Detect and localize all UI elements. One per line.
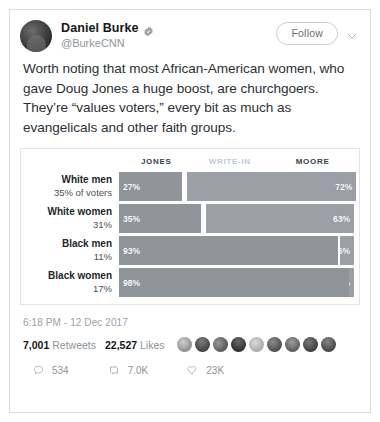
reply-count: 534 bbox=[52, 365, 69, 376]
chart-row: White men 35% of voters 27% 2% 72% bbox=[26, 172, 354, 201]
chart-row: Black women 17% 98% 2% bbox=[26, 268, 354, 297]
like-icon bbox=[186, 364, 199, 377]
chart-row-label: White men 35% of voters bbox=[26, 172, 119, 201]
bar-segment-jones-label: 93% bbox=[119, 246, 144, 256]
likes-count: 22,527 bbox=[105, 339, 137, 351]
retweet-count: 7.0K bbox=[128, 365, 149, 376]
liker-avatar[interactable] bbox=[303, 337, 318, 352]
bar-segment-jones-label: 98% bbox=[119, 278, 144, 288]
retweet-icon bbox=[107, 363, 121, 377]
tweet-card: Daniel Burke @BurkeCNN Follow Worth noti… bbox=[9, 9, 371, 413]
reply-action[interactable]: 534 bbox=[32, 364, 69, 377]
chart-column-headers: JONES WRITE-IN MOORE bbox=[26, 154, 354, 169]
tweet-header: Daniel Burke @BurkeCNN Follow bbox=[10, 10, 370, 52]
retweets-stat[interactable]: 7,001 Retweets bbox=[23, 339, 96, 351]
chart-row: Black men 11% 93% 6% bbox=[26, 236, 354, 265]
bar-segment-jones: 27% bbox=[119, 172, 182, 201]
facepile bbox=[177, 337, 339, 352]
tweet-text: Worth noting that most African-American … bbox=[10, 52, 370, 137]
author-handle[interactable]: @BurkeCNN bbox=[61, 37, 276, 49]
header-actions: Follow bbox=[276, 20, 360, 45]
liker-avatar[interactable] bbox=[231, 337, 246, 352]
chart-row-share: 11% bbox=[26, 251, 112, 263]
bar-segment-moore-label: 6% bbox=[340, 246, 354, 256]
like-action[interactable]: 23K bbox=[186, 364, 224, 377]
chart-row-bar: 35% 2% 63% bbox=[119, 204, 354, 233]
liker-avatar[interactable] bbox=[177, 337, 192, 352]
chart-row-bar: 93% 6% bbox=[119, 236, 354, 265]
avatar[interactable] bbox=[20, 20, 52, 52]
bar-segment-moore: 2% bbox=[349, 268, 354, 297]
bar-segment-moore: 72% bbox=[187, 172, 356, 201]
follow-button[interactable]: Follow bbox=[276, 22, 338, 45]
reply-icon bbox=[32, 364, 45, 377]
verified-badge-icon bbox=[143, 23, 154, 34]
chart-column-header-jones: JONES bbox=[124, 157, 188, 166]
bar-segment-moore-label: 63% bbox=[329, 214, 354, 224]
likes-stat[interactable]: 22,527 Likes bbox=[105, 339, 165, 351]
chart-row-bar: 98% 2% bbox=[119, 268, 354, 297]
chart-row-label: Black women 17% bbox=[26, 268, 119, 297]
tweet-stats: 7,001 Retweets 22,527 Likes bbox=[10, 328, 370, 352]
author-identity: Daniel Burke @BurkeCNN bbox=[61, 20, 276, 49]
bar-segment-moore: 6% bbox=[340, 236, 354, 265]
display-name-row: Daniel Burke bbox=[61, 21, 276, 35]
bar-segment-moore-label: 2% bbox=[349, 278, 354, 288]
liker-avatar[interactable] bbox=[267, 337, 282, 352]
liker-avatar[interactable] bbox=[195, 337, 210, 352]
liker-avatar[interactable] bbox=[285, 337, 300, 352]
like-count: 23K bbox=[206, 365, 224, 376]
chart-row-share: 35% of voters bbox=[26, 187, 112, 199]
liker-avatar[interactable] bbox=[213, 337, 228, 352]
chart-row-group: White men bbox=[26, 174, 112, 186]
chart-column-header-moore: MOORE bbox=[271, 157, 354, 166]
bar-segment-jones: 93% bbox=[119, 236, 338, 265]
retweets-count: 7,001 bbox=[23, 339, 49, 351]
chart-row-share: 17% bbox=[26, 283, 112, 295]
chart-column-header-write-in: WRITE-IN bbox=[188, 157, 271, 166]
chart-row-group: White women bbox=[26, 206, 112, 218]
retweets-label: Retweets bbox=[52, 339, 96, 351]
bar-segment-jones-label: 35% bbox=[119, 214, 144, 224]
bar-segment-jones-label: 27% bbox=[119, 182, 144, 192]
chart-row-label: Black men 11% bbox=[26, 236, 119, 265]
author-display-name[interactable]: Daniel Burke bbox=[61, 21, 139, 35]
retweet-action[interactable]: 7.0K bbox=[107, 363, 149, 377]
chart-row-share: 31% bbox=[26, 219, 112, 231]
chart-card: JONES WRITE-IN MOORE White men 35% of vo… bbox=[20, 148, 360, 305]
liker-avatar[interactable] bbox=[321, 337, 336, 352]
bar-segment-moore-label: 72% bbox=[331, 182, 356, 192]
bar-segment-jones: 98% bbox=[119, 268, 349, 297]
chart-row-bar: 27% 2% 72% bbox=[119, 172, 354, 201]
chevron-down-icon[interactable] bbox=[346, 28, 358, 40]
likes-label: Likes bbox=[140, 339, 165, 351]
tweet-timestamp[interactable]: 6:18 PM - 12 Dec 2017 bbox=[10, 305, 370, 328]
chart-row-group: Black women bbox=[26, 270, 112, 282]
bar-segment-jones: 35% bbox=[119, 204, 201, 233]
chart-row-group: Black men bbox=[26, 238, 112, 250]
chart-row-label: White women 31% bbox=[26, 204, 119, 233]
tweet-action-bar: 534 7.0K 23K bbox=[10, 352, 370, 377]
liker-avatar[interactable] bbox=[249, 337, 264, 352]
chart-row: White women 31% 35% 2% 63% bbox=[26, 204, 354, 233]
bar-segment-moore: 63% bbox=[206, 204, 354, 233]
